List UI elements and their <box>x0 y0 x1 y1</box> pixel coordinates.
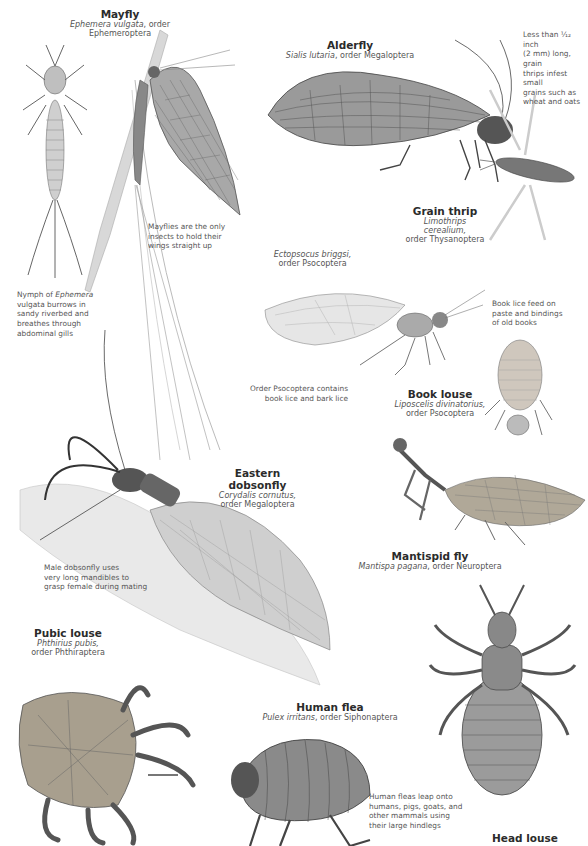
human-flea-common-name: Human flea <box>255 701 405 713</box>
book-louse-common-name: Book louse <box>390 388 490 400</box>
alderfly-illustration <box>260 40 475 180</box>
book-lice-food-note: Book lice feed on paste and bindings of … <box>492 299 582 328</box>
mantispid-fly-label: Mantispid fly Mantispa pagana, order Neu… <box>355 550 505 571</box>
mayfly-nymph-illustration <box>18 40 93 280</box>
alderfly-common-name: Alderfly <box>275 39 425 51</box>
pubic-louse-label: Pubic louse Phthirius pubis, order Phthi… <box>18 627 118 657</box>
dobsonfly-mandibles-note: Male dobsonfly uses very long mandibles … <box>44 563 164 592</box>
mayfly-wings-note: Mayflies are the only insects to hold th… <box>148 222 238 251</box>
book-louse-label: Book louse Liposcelis divinatorius, orde… <box>390 388 490 418</box>
grain-thrip-illustration <box>480 90 585 240</box>
mayfly-common-name: Mayfly <box>40 8 200 20</box>
mayfly-label: Mayfly Ephemera vulgata, order Ephemerop… <box>40 8 200 38</box>
grain-thrip-common-name: Grain thrip <box>405 205 485 217</box>
book-louse-illustration <box>480 330 560 445</box>
grain-thrip-label: Grain thrip Limothrips cerealium, order … <box>405 205 485 245</box>
human-flea-illustration <box>220 725 380 846</box>
ectopsocus-label: Ectopsocus briggsi, order Psocoptera <box>255 250 370 268</box>
human-flea-label: Human flea Pulex irritans, order Siphona… <box>255 701 405 722</box>
mantispid-fly-common-name: Mantispid fly <box>355 550 505 562</box>
pubic-louse-common-name: Pubic louse <box>18 627 118 639</box>
grain-thrip-size-note: Less than ¹⁄₁₂ inch (2 mm) long, grain t… <box>523 30 588 107</box>
pubic-louse-illustration <box>8 665 208 846</box>
alderfly-scientific-name: Sialis lutaria, order Megaloptera <box>275 51 425 60</box>
mantispid-fly-illustration <box>385 430 585 550</box>
eastern-dobsonfly-common-name: Eastern dobsonfly <box>205 467 310 491</box>
human-flea-note: Human fleas leap onto humans, pigs, goat… <box>369 792 479 831</box>
head-louse-illustration <box>420 585 585 800</box>
psocoptera-note: Order Psocoptera contains book lice and … <box>248 384 348 403</box>
mayfly-scientific-name: Ephemera vulgata, order Ephemeroptera <box>40 20 200 38</box>
head-louse-label: Head louse <box>485 832 565 844</box>
eastern-dobsonfly-label: Eastern dobsonfly Corydalis cornutus, or… <box>205 467 310 510</box>
mayfly-nymph-note: Nymph of Ephemera vulgata burrows in san… <box>17 290 107 338</box>
mayfly-illustration <box>120 40 280 240</box>
alderfly-label: Alderfly Sialis lutaria, order Megalopte… <box>275 39 425 60</box>
head-louse-common-name: Head louse <box>485 832 565 844</box>
